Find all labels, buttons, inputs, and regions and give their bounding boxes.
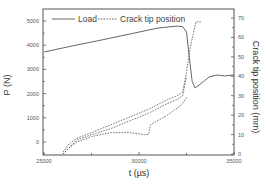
y-tick-label: 2000 (27, 91, 39, 97)
chart: 2500030000350000100020003000400050000102… (0, 0, 268, 189)
y-tick-label: 3000 (27, 66, 39, 72)
crack-tip-line-1 (63, 22, 202, 152)
y-axis-title: P (N) (2, 75, 12, 96)
y2-tick-label: 40 (238, 73, 244, 79)
legend-crack-label: Crack tip position (120, 14, 185, 24)
y2-tick-label: 50 (238, 54, 244, 60)
x-tick-label: 35000 (226, 158, 241, 164)
y-tick-label: 0 (36, 139, 39, 145)
y-tick-label: 1000 (27, 115, 39, 121)
x-axis-title: t (µs) (129, 168, 150, 178)
y-tick-label: 4000 (27, 42, 39, 48)
crack-tip-line-3 (63, 98, 187, 154)
y-tick-label: 5000 (27, 18, 39, 24)
load-line (44, 26, 234, 88)
y2-axis-title: Crack tip position (mm) (251, 41, 261, 134)
ticks-layer: 2500030000350000100020003000400050000102… (27, 15, 244, 164)
y2-tick-label: 70 (238, 15, 244, 21)
x-tick-label: 30000 (131, 158, 146, 164)
legend-load-label: Load (78, 14, 97, 24)
y2-tick-label: 0 (238, 151, 241, 157)
plot-frame (43, 9, 234, 155)
y2-tick-label: 60 (238, 34, 244, 40)
y2-tick-label: 20 (238, 112, 244, 118)
series-layer (44, 22, 234, 154)
y2-tick-label: 10 (238, 132, 244, 138)
y2-tick-label: 30 (238, 93, 244, 99)
x-tick-label: 25000 (36, 158, 51, 164)
legend: Load Crack tip position (52, 14, 185, 24)
